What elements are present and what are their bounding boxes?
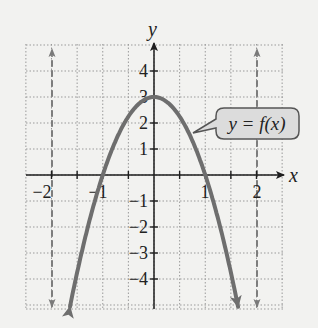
function-callout: y = f(x) (193, 108, 299, 139)
x-axis-label: x (288, 164, 298, 186)
y-tick-label: −4 (129, 269, 148, 289)
y-tick-label: 2 (139, 113, 148, 133)
y-tick-label: 1 (139, 139, 148, 159)
y-tick-label: 4 (139, 61, 148, 81)
y-tick-label: −3 (129, 243, 148, 263)
function-graph: −2 −1 1 2 4 3 2 1 −1 −2 −3 −4 x y y = f(… (0, 0, 318, 328)
y-tick-label: −1 (129, 191, 148, 211)
x-tick-label: 2 (253, 182, 262, 202)
x-tick-label: −2 (32, 182, 51, 202)
y-axis-label: y (146, 18, 157, 41)
axes (26, 43, 284, 309)
y-tick-label: −2 (129, 217, 148, 237)
callout-label: y = f(x) (226, 113, 285, 135)
